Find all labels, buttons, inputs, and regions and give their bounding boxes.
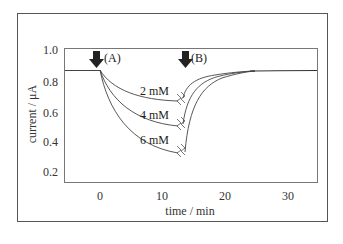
x-axis-label: time / min — [165, 204, 214, 218]
y-tick-label: 0.2 — [43, 165, 58, 179]
x-tick-label: 0 — [97, 189, 103, 203]
chart-figure: 1.0 0.8 0.6 0.4 0.2 0 10 20 30 time / mi… — [0, 0, 343, 244]
annotation-label-A: (A) — [104, 51, 121, 65]
series-label-6mM: 6 mM — [140, 133, 169, 147]
series-label-4mM: 4 mM — [140, 108, 169, 122]
y-tick-label: 0.4 — [43, 135, 58, 149]
x-tick-label: 20 — [219, 189, 231, 203]
series-label-2mM: 2 mM — [140, 84, 169, 98]
recovered-baseline-line — [250, 71, 317, 72]
x-tick-label: 30 — [282, 189, 294, 203]
y-tick-label: 0.6 — [43, 106, 58, 120]
y-axis-label: current / μA — [25, 84, 39, 143]
x-tick-label: 10 — [156, 189, 168, 203]
y-tick-label: 0.8 — [43, 75, 58, 89]
y-tick-label: 1.0 — [43, 43, 58, 57]
annotation-label-B: (B) — [191, 51, 207, 65]
